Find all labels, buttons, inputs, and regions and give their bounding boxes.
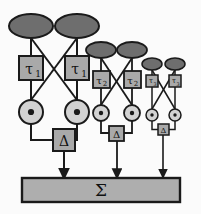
tau-box-3a-subscript: 3 <box>153 81 156 87</box>
multiply-dot-icon-3b <box>173 113 176 116</box>
diagram-canvas: τ 1 τ 1 Δ τ 2 <box>0 0 201 214</box>
tau-box-2a-label: τ <box>96 75 102 86</box>
multiply-dot-icon-2a <box>99 111 103 115</box>
elbow-1-left-to-delta <box>31 124 53 140</box>
module-3: τ 3 τ 3 Δ <box>142 58 185 174</box>
summation-node[interactable]: Σ <box>22 178 180 202</box>
input-ellipse-1b[interactable] <box>55 14 99 38</box>
elbow-3-left-to-delta <box>152 121 158 130</box>
tau-box-1a-label: τ <box>25 61 33 77</box>
tau-box-1b-label: τ <box>71 61 79 77</box>
diagram-svg: τ 1 τ 1 Δ τ 2 <box>0 0 201 214</box>
summation-symbol: Σ <box>95 180 107 200</box>
tau-box-3b-subscript: 3 <box>176 81 179 87</box>
input-ellipse-2a[interactable] <box>86 42 116 58</box>
elbow-3-right-to-delta <box>169 121 175 130</box>
multiply-dot-icon-1b <box>74 109 80 115</box>
module-1: τ 1 τ 1 Δ <box>9 14 99 174</box>
delta-box-3-label: Δ <box>161 126 167 135</box>
input-ellipse-2b[interactable] <box>117 42 147 58</box>
delta-box-1-label: Δ <box>59 133 69 149</box>
input-ellipse-3b[interactable] <box>165 58 185 70</box>
elbow-2-left-to-delta <box>101 121 109 133</box>
module-2: τ 2 τ 2 Δ <box>86 42 147 174</box>
input-ellipse-1a[interactable] <box>9 14 53 38</box>
tau-box-2b-label: τ <box>127 75 133 86</box>
input-ellipse-3a[interactable] <box>142 58 162 70</box>
tau-box-1b-subscript: 1 <box>81 69 87 79</box>
multiply-dot-icon-1a <box>28 109 34 115</box>
elbow-2-right-to-delta <box>124 121 132 133</box>
tau-box-2b-subscript: 2 <box>134 80 138 88</box>
delta-box-2-label: Δ <box>113 129 120 140</box>
tau-box-1a-subscript: 1 <box>35 69 41 79</box>
multiply-dot-icon-3a <box>150 113 153 116</box>
multiply-dot-icon-2b <box>130 111 134 115</box>
tau-box-2a-subscript: 2 <box>103 80 107 88</box>
